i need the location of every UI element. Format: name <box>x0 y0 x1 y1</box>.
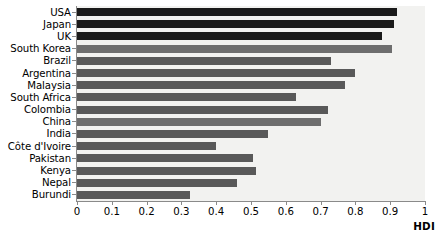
bar-row <box>77 7 425 18</box>
y-axis-label: South Africa <box>10 92 74 103</box>
bar <box>77 130 268 138</box>
x-axis-tick-label: 0.9 <box>382 206 398 218</box>
bar <box>77 20 394 28</box>
plot-area <box>77 6 425 201</box>
bar <box>77 45 392 53</box>
y-axis-label: Burundi <box>32 189 74 200</box>
y-axis-label: Kenya <box>40 165 74 176</box>
x-axis-tick-mark <box>251 201 252 205</box>
bar <box>77 191 190 199</box>
hdi-bar-chart: USAJapanUKSouth KoreaBrazilArgentinaMala… <box>0 0 439 236</box>
x-axis-tick-label: 0.2 <box>138 206 154 218</box>
x-axis-tick-label: 0.5 <box>243 206 259 218</box>
x-axis-tick-label: 0.3 <box>173 206 189 218</box>
bar <box>77 69 355 77</box>
bar-series <box>77 6 425 201</box>
x-axis-tick-mark <box>181 201 182 205</box>
x-axis-tick-mark <box>216 201 217 205</box>
x-axis-tick-labels: 00.10.20.30.40.50.60.70.80.91 <box>77 206 425 220</box>
x-axis-tick-mark <box>77 201 78 205</box>
bar-row <box>77 43 425 54</box>
y-axis-label: Malaysia <box>27 80 74 91</box>
bar <box>77 81 345 89</box>
y-axis-label: Pakistan <box>29 153 74 164</box>
x-axis-tick-label: 0 <box>74 206 80 218</box>
x-axis-tick-label: 0.8 <box>347 206 363 218</box>
y-axis-label: South Korea <box>10 43 74 54</box>
y-axis-label: Brazil <box>43 55 74 66</box>
bar-row <box>77 189 425 200</box>
bar-row <box>77 116 425 127</box>
bar-row <box>77 55 425 66</box>
bar-row <box>77 165 425 176</box>
y-axis-label: Côte d'Ivoire <box>8 141 74 152</box>
x-axis-tick-mark <box>355 201 356 205</box>
bar-row <box>77 31 425 42</box>
bar-row <box>77 141 425 152</box>
bar-row <box>77 177 425 188</box>
y-axis-label: USA <box>50 7 74 18</box>
y-axis-label: Colombia <box>24 104 74 115</box>
x-axis-tick-label: 0.4 <box>208 206 224 218</box>
bar <box>77 32 382 40</box>
x-axis-tick-mark <box>425 201 426 205</box>
y-axis-label: China <box>42 116 74 127</box>
y-axis-label: India <box>46 128 74 139</box>
bar-row <box>77 19 425 30</box>
x-axis-tick-mark <box>321 201 322 205</box>
x-axis-tick-label: 1 <box>422 206 428 218</box>
bar <box>77 154 253 162</box>
bar <box>77 93 296 101</box>
y-axis-category-labels: USAJapanUKSouth KoreaBrazilArgentinaMala… <box>0 6 74 201</box>
y-axis-label: Japan <box>43 19 74 30</box>
y-axis-label: Argentina <box>22 68 74 79</box>
x-axis-tick-mark <box>286 201 287 205</box>
x-axis-tick-label: 0.6 <box>278 206 294 218</box>
bar-row <box>77 92 425 103</box>
bar-row <box>77 104 425 115</box>
bar <box>77 118 321 126</box>
bar <box>77 167 256 175</box>
bar-row <box>77 80 425 91</box>
bar <box>77 57 331 65</box>
y-axis-label: Nepal <box>42 177 74 188</box>
bar <box>77 179 237 187</box>
x-axis-tick-mark <box>147 201 148 205</box>
x-axis-tick-mark <box>390 201 391 205</box>
x-axis-tick-label: 0.1 <box>104 206 120 218</box>
bar-row <box>77 128 425 139</box>
bar <box>77 142 216 150</box>
bar <box>77 106 328 114</box>
bar-row <box>77 68 425 79</box>
bar-row <box>77 153 425 164</box>
y-axis-line <box>76 6 77 202</box>
x-axis-tick-mark <box>112 201 113 205</box>
x-axis-title: HDI <box>413 220 435 232</box>
bar <box>77 8 397 16</box>
x-axis-tick-label: 0.7 <box>312 206 328 218</box>
